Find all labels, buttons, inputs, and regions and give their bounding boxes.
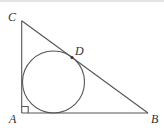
side-cb-hypotenuse (22, 21, 148, 113)
label-b: B (151, 112, 159, 126)
tangent-point-d (71, 56, 74, 59)
label-a: A (8, 112, 17, 126)
label-d: D (74, 44, 84, 58)
inscribed-circle (23, 51, 85, 113)
right-angle-mark (22, 107, 29, 114)
label-c: C (8, 10, 17, 24)
triangle-diagram: C D A B (0, 0, 164, 137)
